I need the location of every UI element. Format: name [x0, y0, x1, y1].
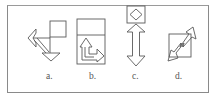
double-arrow-vertical-icon: [127, 24, 145, 66]
option-label-b: b.: [89, 71, 96, 81]
option-label-d: d.: [175, 71, 182, 81]
options-figure: [0, 0, 218, 101]
triangle-down-icon: [42, 53, 60, 61]
l-arrow-icon: [80, 38, 104, 62]
diamond-icon: [130, 9, 142, 20]
option-b-figure: [77, 19, 105, 64]
option-d-figure: [168, 27, 196, 61]
option-label-c: c.: [132, 71, 139, 81]
option-label-a: a.: [46, 71, 53, 81]
option-c-figure: [127, 6, 145, 66]
option-a-figure: [28, 21, 66, 61]
square-icon: [50, 21, 66, 37]
